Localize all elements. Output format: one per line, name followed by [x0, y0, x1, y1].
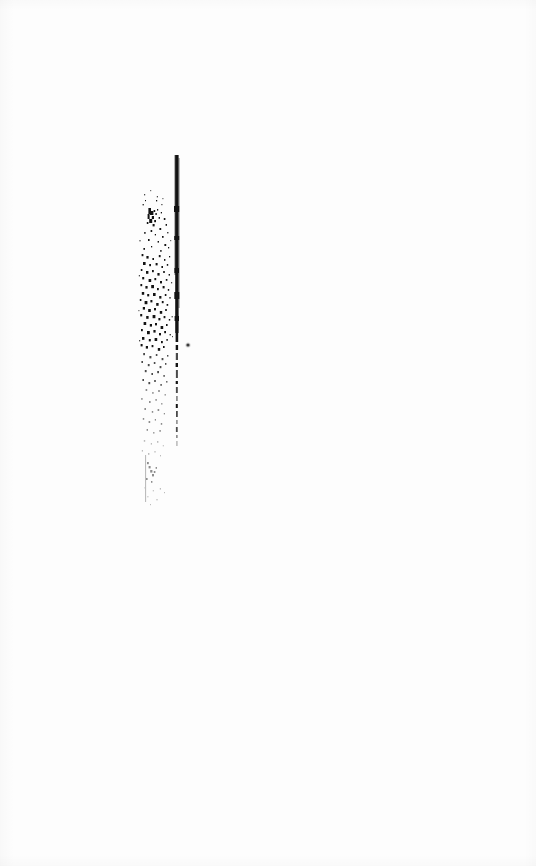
paper-vignette — [0, 0, 536, 866]
scan-artifact-region — [130, 140, 202, 515]
scanned-page — [0, 0, 536, 866]
toner-speckle-field — [130, 140, 202, 515]
